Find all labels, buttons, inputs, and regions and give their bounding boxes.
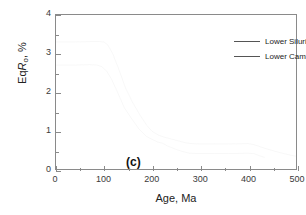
y-tick-major bbox=[56, 15, 61, 16]
x-tick-minor bbox=[80, 168, 81, 171]
x-tick-label: 400 bbox=[229, 175, 269, 184]
figure-panel-c: EqRo, % Age, Ma Lower Silurian Lower Cam… bbox=[0, 0, 306, 215]
legend-entry-lower-silurian: Lower Silurian bbox=[234, 35, 306, 48]
legend-swatch-lower-cambrian bbox=[234, 56, 260, 57]
y-tick-minor bbox=[56, 35, 59, 36]
x-axis-title: Age, Ma bbox=[55, 192, 297, 204]
panel-label: (c) bbox=[126, 155, 141, 169]
plot-area: Lower Silurian Lower Cambrian (c) bbox=[55, 14, 297, 170]
y-axis-title-prefix: Eq bbox=[16, 70, 28, 83]
y-tick-label: 2 bbox=[31, 87, 51, 96]
x-tick-major bbox=[298, 166, 299, 171]
x-tick-label: 300 bbox=[180, 175, 220, 184]
x-tick-major bbox=[250, 166, 251, 171]
y-axis-title-suffix: , % bbox=[16, 42, 28, 58]
y-tick-major bbox=[56, 54, 61, 55]
legend-swatch-lower-silurian bbox=[234, 41, 260, 42]
legend-label-lower-silurian: Lower Silurian bbox=[265, 37, 306, 46]
y-tick-major bbox=[56, 132, 61, 133]
y-tick-label: 3 bbox=[31, 48, 51, 57]
y-tick-minor bbox=[56, 113, 59, 114]
x-tick-major bbox=[201, 166, 202, 171]
x-tick-label: 200 bbox=[132, 175, 172, 184]
y-tick-label: 0 bbox=[31, 165, 51, 174]
y-axis-title: EqRo, % bbox=[16, 0, 30, 133]
y-axis-title-subscript: o bbox=[21, 58, 30, 62]
y-axis-title-symbol: R bbox=[16, 62, 28, 70]
x-tick-minor bbox=[225, 168, 226, 171]
y-tick-label: 1 bbox=[31, 126, 51, 135]
x-tick-minor bbox=[129, 168, 130, 171]
x-tick-minor bbox=[274, 168, 275, 171]
y-tick-major bbox=[56, 93, 61, 94]
x-tick-major bbox=[56, 166, 57, 171]
legend-entry-lower-cambrian: Lower Cambrian bbox=[234, 50, 306, 63]
x-tick-minor bbox=[177, 168, 178, 171]
y-tick-label: 4 bbox=[31, 9, 51, 18]
x-tick-label: 100 bbox=[83, 175, 123, 184]
legend: Lower Silurian Lower Cambrian bbox=[234, 35, 306, 65]
y-tick-minor bbox=[56, 74, 59, 75]
x-tick-major bbox=[104, 166, 105, 171]
y-tick-minor bbox=[56, 152, 59, 153]
y-tick-major bbox=[56, 171, 61, 172]
x-tick-label: 0 bbox=[35, 175, 75, 184]
series-line-lower-cambrian bbox=[56, 65, 265, 158]
x-tick-label: 500 bbox=[277, 175, 306, 184]
x-tick-major bbox=[153, 166, 154, 171]
legend-label-lower-cambrian: Lower Cambrian bbox=[265, 52, 306, 61]
